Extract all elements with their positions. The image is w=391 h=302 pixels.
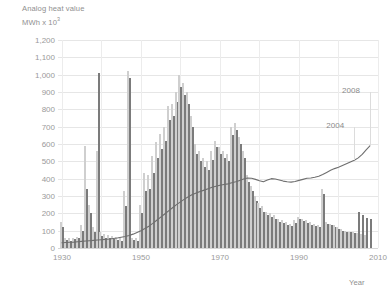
gridline-horizontal — [58, 248, 378, 249]
x-tick-label: 1970 — [211, 253, 229, 262]
annotation-leader-line — [370, 92, 371, 146]
y-tick-label: 1,200 — [15, 36, 55, 45]
y-tick-label: 400 — [15, 174, 55, 183]
trend-line-series — [58, 40, 378, 248]
y-tick-label: 1,100 — [15, 53, 55, 62]
gridline-vertical — [378, 40, 379, 248]
y-tick-label: 700 — [15, 122, 55, 131]
x-tick-label: 1930 — [53, 253, 71, 262]
x-axis-title: Year — [349, 278, 365, 287]
annotation-label: 2008 — [342, 86, 360, 95]
annotation-label: 2004 — [326, 121, 344, 130]
x-tick-label: 1990 — [290, 253, 308, 262]
y-tick-label: 800 — [15, 105, 55, 114]
y-tick-label: 0 — [15, 244, 55, 253]
y-tick-label: 900 — [15, 88, 55, 97]
chart-title-line2: MWh x 103 — [22, 18, 60, 27]
trend-line-path — [62, 146, 370, 243]
chart-container: Analog heat value MWh x 103 Year 1,2001,… — [0, 0, 391, 302]
plot-area: 1,2001,1001,0009008007006005004003002001… — [58, 40, 378, 248]
y-tick-label: 100 — [15, 226, 55, 235]
y-axis-title: Analog heat value MWh x 103 — [22, 4, 85, 29]
x-tick-label: 1950 — [132, 253, 150, 262]
y-tick-label: 300 — [15, 192, 55, 201]
chart-title-line1: Analog heat value — [22, 4, 85, 13]
y-tick-label: 600 — [15, 140, 55, 149]
annotation-leader-line — [354, 127, 355, 161]
y-tick-label: 200 — [15, 209, 55, 218]
y-tick-label: 1,000 — [15, 70, 55, 79]
x-tick-label: 2010 — [369, 253, 387, 262]
y-tick-label: 500 — [15, 157, 55, 166]
